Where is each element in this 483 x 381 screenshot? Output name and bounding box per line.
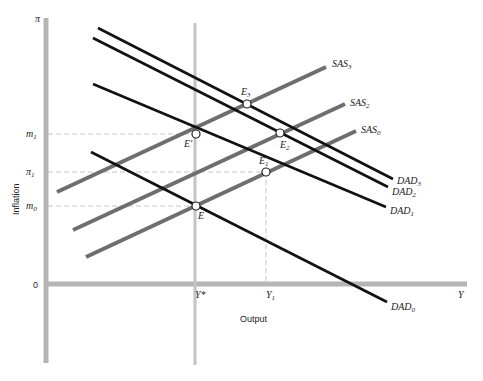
dad-curve-1 [93,84,386,207]
point-label-3: E2 [279,139,290,152]
equilibrium-point-2 [262,168,270,176]
x-axis-end-label: Y [458,289,465,300]
dad-label-2: DAD2 [391,186,417,199]
ad-as-diagram: SAS3SAS2SAS0DAD3DAD2DAD1DAD0EE'E1E2E3 π … [0,0,483,381]
y-tick-π1: π1 [26,166,35,179]
equilibrium-point-0 [192,202,200,210]
equilibrium-point-4 [243,100,251,108]
dad-label-0: DAD0 [390,301,416,314]
point-label-4: E3 [240,86,251,99]
equilibrium-point-1 [192,130,200,138]
origin-label: 0 [33,280,38,290]
y-axis-title: Inflation [11,183,21,215]
dad-curve-0 [91,152,387,302]
point-label-1: E' [183,138,193,149]
x-tick-Y1: Y1 [266,289,275,302]
sas-label-2: SAS2 [350,97,370,110]
sas-label-0: SAS0 [361,124,381,137]
equilibrium-point-3 [276,129,284,137]
y-axis-top-label: π [35,13,41,24]
x-axis-title: Output [240,314,268,324]
y-tick-m0: m0 [26,200,37,213]
sas-label-3: SAS3 [332,58,352,71]
y-tick-m1: m1 [26,128,37,141]
dad-label-1: DAD1 [389,205,414,218]
point-label-0: E [197,210,204,221]
x-tick-Y*: Y* [195,289,206,300]
